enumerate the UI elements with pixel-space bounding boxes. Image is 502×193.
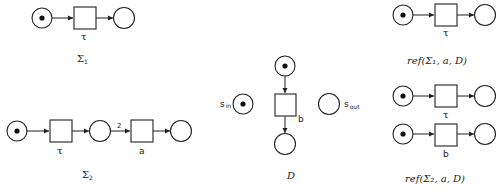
place-s-out: [319, 94, 340, 115]
net-sigma2: 2 τ a Σ2: [7, 120, 192, 181]
caption-sigma1: Σ1: [77, 53, 88, 65]
transition-tau: [435, 4, 457, 26]
transition-label: τ: [443, 109, 449, 120]
transition-tau: [435, 85, 457, 107]
transition-label: b: [443, 149, 449, 159]
transition-label: a: [139, 146, 145, 156]
caption-sigma2: Σ2: [82, 169, 93, 181]
arc-weight: 2: [117, 122, 121, 130]
caption-D: D: [286, 170, 295, 181]
transition-b: [435, 124, 457, 146]
transition-tau: [74, 7, 96, 29]
transition-tau: [50, 120, 72, 142]
token: [400, 131, 405, 136]
transition-label: τ: [57, 145, 63, 156]
net-sigma1: τ Σ1: [32, 7, 135, 65]
net-D: b sin sout D: [220, 56, 360, 181]
token: [400, 12, 405, 17]
place-empty: [475, 124, 496, 145]
transition-b: [275, 94, 296, 116]
place-empty: [475, 5, 496, 26]
place-empty: [90, 121, 111, 142]
caption-ref2: ref(Σ₂, a, D): [405, 173, 465, 184]
petri-net-figure: τ Σ1 2 τ a Σ2 b sin sout D: [0, 0, 502, 193]
place-empty: [275, 134, 296, 155]
net-ref1: τ ref(Σ₁, a, D): [393, 4, 496, 66]
place-empty: [114, 8, 135, 29]
transition-a: [131, 120, 153, 142]
s-out-label: sout: [344, 99, 360, 110]
net-ref2: τ b ref(Σ₂, a, D): [393, 85, 496, 184]
token: [39, 15, 44, 20]
place-empty: [171, 121, 192, 142]
token: [400, 93, 405, 98]
transition-label: τ: [443, 27, 449, 38]
place-empty: [475, 86, 496, 107]
token: [240, 101, 245, 106]
token: [282, 63, 287, 68]
transition-label: τ: [81, 31, 87, 42]
token: [14, 128, 19, 133]
transition-label: b: [298, 114, 304, 124]
s-in-label: sin: [220, 99, 231, 109]
caption-ref1: ref(Σ₁, a, D): [407, 55, 467, 66]
